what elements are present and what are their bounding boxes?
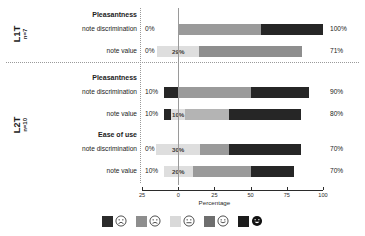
legend-item-face-very-happy bbox=[238, 215, 263, 227]
group-label-L1T: L1Tn=7 bbox=[0, 6, 42, 61]
likert-chart: Pleasantnessnote discrimination0%100%not… bbox=[0, 0, 365, 236]
bar-segment-very-pleasant bbox=[251, 87, 309, 98]
legend-swatch bbox=[170, 216, 181, 227]
row-right-percent: 70% bbox=[330, 167, 343, 174]
face-very-happy-icon bbox=[251, 215, 263, 227]
face-sad-icon bbox=[149, 215, 161, 227]
row-label: note value bbox=[42, 110, 137, 117]
group-label-L2T: L2Tn=10 bbox=[0, 69, 42, 181]
row-right-percent: 71% bbox=[330, 47, 343, 54]
x-axis-tick bbox=[142, 187, 143, 190]
group-name: L2T bbox=[13, 117, 22, 134]
face-happy-icon bbox=[217, 215, 229, 227]
section-heading: Pleasantness bbox=[42, 11, 137, 18]
legend-item-face-very-sad bbox=[102, 215, 127, 227]
bar-segment-very-pleasant bbox=[229, 109, 301, 120]
x-axis-tick-label: 25 bbox=[211, 192, 217, 198]
row-label: note discrimination bbox=[42, 88, 137, 95]
row-label: note discrimination bbox=[42, 25, 137, 32]
legend-swatch bbox=[204, 216, 215, 227]
x-axis-tick bbox=[287, 187, 288, 190]
label-plot-divider bbox=[140, 8, 141, 183]
row-label: note discrimination bbox=[42, 145, 137, 152]
bar-segment-very-pleasant bbox=[261, 24, 323, 35]
face-neutral-icon bbox=[183, 215, 195, 227]
legend-swatch bbox=[238, 216, 249, 227]
x-axis-tick-label: 25 bbox=[139, 192, 145, 198]
row-left-percent: 0% bbox=[145, 145, 155, 152]
legend-swatch bbox=[102, 216, 113, 227]
group-name: L1T bbox=[13, 25, 22, 42]
x-axis-tick bbox=[214, 187, 215, 190]
bar-segment-pleasant bbox=[200, 144, 229, 155]
row-label: note value bbox=[42, 47, 137, 54]
x-axis-tick-label: 75 bbox=[284, 192, 290, 198]
section-heading: Ease of use bbox=[42, 131, 137, 138]
face-very-sad-icon bbox=[115, 215, 127, 227]
row-right-percent: 90% bbox=[330, 88, 343, 95]
row-left-percent: 10% bbox=[145, 167, 158, 174]
row-left-percent: 10% bbox=[145, 110, 158, 117]
bar-segment-very-pleasant bbox=[251, 166, 294, 177]
row-right-percent: 70% bbox=[330, 145, 343, 152]
x-axis-tick-label: 0 bbox=[177, 192, 180, 198]
legend-item-face-sad bbox=[136, 215, 161, 227]
bar-segment-negative bbox=[164, 87, 178, 98]
x-axis-tick bbox=[178, 187, 179, 190]
row-left-percent: 10% bbox=[145, 88, 158, 95]
legend-item-face-neutral bbox=[170, 215, 195, 227]
x-axis-tick bbox=[323, 187, 324, 190]
group-sample-size: n=7 bbox=[23, 28, 29, 39]
section-heading: Pleasantness bbox=[42, 74, 137, 81]
legend-swatch bbox=[136, 216, 147, 227]
row-right-percent: 80% bbox=[330, 110, 343, 117]
row-label: note value bbox=[42, 167, 137, 174]
bar-segment-pleasant bbox=[178, 87, 250, 98]
x-axis-tick bbox=[251, 187, 252, 190]
row-left-percent: 0% bbox=[145, 47, 155, 54]
x-axis-title: Percentage bbox=[199, 199, 231, 206]
bar-segment-neutral-pleasant bbox=[178, 24, 261, 35]
bar-segment-pleasant bbox=[193, 166, 251, 177]
row-left-percent: 0% bbox=[145, 25, 155, 32]
x-axis-tick-label: 50 bbox=[247, 192, 253, 198]
legend-item-face-happy bbox=[204, 215, 229, 227]
bar-segment-pleasant bbox=[199, 46, 302, 57]
bar-segment-pleasant bbox=[185, 109, 228, 120]
row-right-percent: 100% bbox=[330, 25, 347, 32]
chart-legend bbox=[0, 210, 365, 232]
zero-reference-line bbox=[178, 8, 179, 185]
group-separator bbox=[6, 62, 359, 63]
x-axis-tick-label: 100 bbox=[318, 192, 327, 198]
bar-segment-very-pleasant bbox=[229, 144, 301, 155]
x-axis-line bbox=[142, 190, 323, 191]
group-sample-size: n=10 bbox=[23, 118, 29, 132]
